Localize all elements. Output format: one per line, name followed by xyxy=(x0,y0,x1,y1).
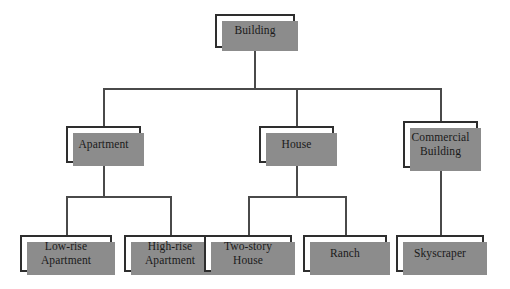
hierarchy-diagram: Building Apartment House Commercial Buil… xyxy=(0,0,510,289)
node-two-story-house[interactable]: Two-story House xyxy=(204,235,292,272)
node-ranch[interactable]: Ranch xyxy=(303,235,387,272)
node-apartment-label: Apartment xyxy=(74,138,132,152)
node-skyscraper-label: Skyscraper xyxy=(410,247,470,261)
node-commercial-building-label: Commercial Building xyxy=(408,131,474,158)
node-ranch-label: Ranch xyxy=(326,247,364,261)
node-low-rise-apartment[interactable]: Low-rise Apartment xyxy=(20,235,112,272)
connector-to-low-rise-apartment xyxy=(66,196,68,235)
connector-to-two-story-house xyxy=(248,196,250,235)
connector-to-high-rise-apartment xyxy=(170,196,172,235)
node-high-rise-apartment[interactable]: High-rise Apartment xyxy=(124,235,216,272)
node-commercial-building[interactable]: Commercial Building xyxy=(403,121,478,168)
node-skyscraper[interactable]: Skyscraper xyxy=(396,235,484,272)
node-house-label: House xyxy=(278,138,316,152)
connector-level2-bus xyxy=(103,88,442,90)
connector-house-bus xyxy=(248,196,347,198)
node-house[interactable]: House xyxy=(259,126,334,163)
connector-to-skyscraper xyxy=(440,168,442,235)
connector-house-stem xyxy=(296,163,298,196)
connector-building-stem xyxy=(254,48,256,89)
node-two-story-house-label: Two-story House xyxy=(220,240,276,267)
node-building[interactable]: Building xyxy=(215,14,295,48)
node-high-rise-apartment-label: High-rise Apartment xyxy=(141,240,199,267)
node-low-rise-apartment-label: Low-rise Apartment xyxy=(37,240,95,267)
node-building-label: Building xyxy=(230,24,279,38)
connector-to-commercial-building xyxy=(440,88,442,121)
connector-apartment-stem xyxy=(103,163,105,196)
connector-to-apartment xyxy=(103,88,105,126)
connector-apartment-bus xyxy=(66,196,172,198)
connector-to-ranch xyxy=(345,196,347,235)
node-apartment[interactable]: Apartment xyxy=(66,126,141,163)
connector-to-house xyxy=(296,88,298,126)
